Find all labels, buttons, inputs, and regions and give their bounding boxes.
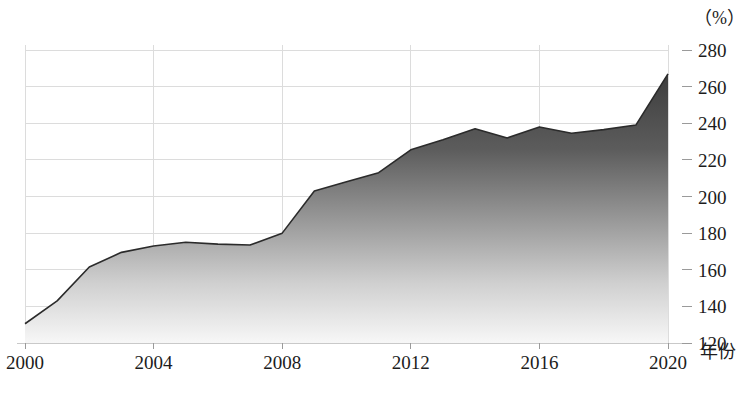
y-axis-tick-labels: 280260240220200180160140120	[698, 40, 727, 354]
y-axis-tick-label: 140	[698, 296, 727, 317]
y-axis-tick-label: 220	[698, 150, 727, 171]
y-axis-tick-label: 240	[698, 113, 727, 134]
y-axis-tick-label: 260	[698, 77, 727, 98]
x-axis-tick-label: 2016	[520, 352, 558, 373]
x-axis-tick-label: 2012	[392, 352, 430, 373]
x-axis-tick-label: 2008	[263, 352, 301, 373]
y-axis-tick-label: 200	[698, 187, 727, 208]
y-axis-tick-label: 160	[698, 260, 727, 281]
plot-area-group	[25, 74, 668, 343]
series-area-macro-leverage	[25, 74, 668, 343]
x-axis-tick-label: 2020	[649, 352, 687, 373]
y-axis-tick-label: 180	[698, 223, 727, 244]
y-axis-unit-label: （%）	[694, 8, 745, 28]
x-axis-title: 年份	[700, 342, 736, 362]
y-axis-tick-label: 280	[698, 40, 727, 61]
chart-container: 280260240220200180160140120 200020042008…	[0, 0, 756, 395]
x-axis-tick-label: 2000	[6, 352, 44, 373]
x-axis-tick-label: 2004	[135, 352, 174, 373]
area-chart: 280260240220200180160140120 200020042008…	[0, 0, 756, 395]
x-axis-tick-labels: 200020042008201220162020	[6, 352, 687, 373]
